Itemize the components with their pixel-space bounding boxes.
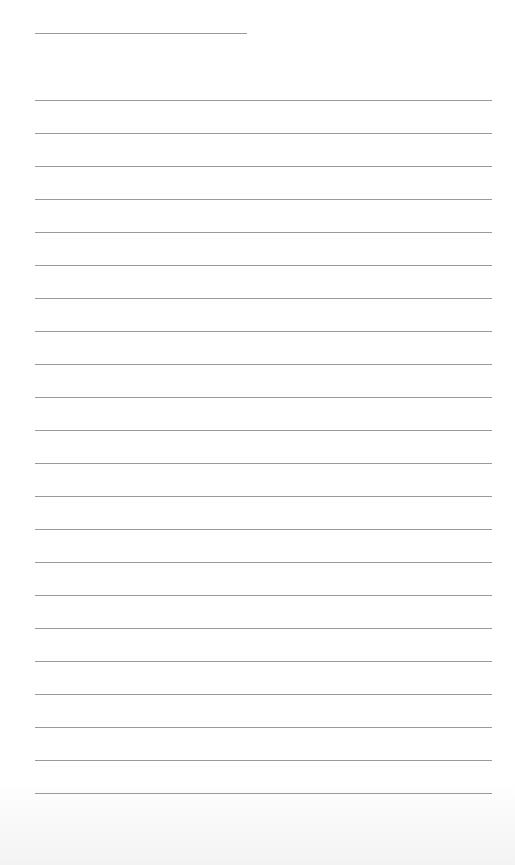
ruled-line: [35, 529, 492, 530]
ruled-line: [35, 100, 492, 101]
ruled-line: [35, 661, 492, 662]
ruled-line: [35, 199, 492, 200]
ruled-line: [35, 793, 492, 794]
ruled-line: [35, 364, 492, 365]
ruled-line: [35, 496, 492, 497]
ruled-line: [35, 562, 492, 563]
ruled-line: [35, 760, 492, 761]
ruled-line: [35, 430, 492, 431]
title-line: [35, 33, 247, 34]
ruled-line: [35, 463, 492, 464]
ruled-line: [35, 166, 492, 167]
ruled-line: [35, 694, 492, 695]
ruled-line: [35, 628, 492, 629]
lined-paper-page: [0, 0, 515, 865]
ruled-line: [35, 331, 492, 332]
ruled-line: [35, 595, 492, 596]
ruled-line: [35, 298, 492, 299]
ruled-line: [35, 727, 492, 728]
ruled-line: [35, 232, 492, 233]
ruled-line: [35, 397, 492, 398]
ruled-line: [35, 265, 492, 266]
ruled-line: [35, 133, 492, 134]
